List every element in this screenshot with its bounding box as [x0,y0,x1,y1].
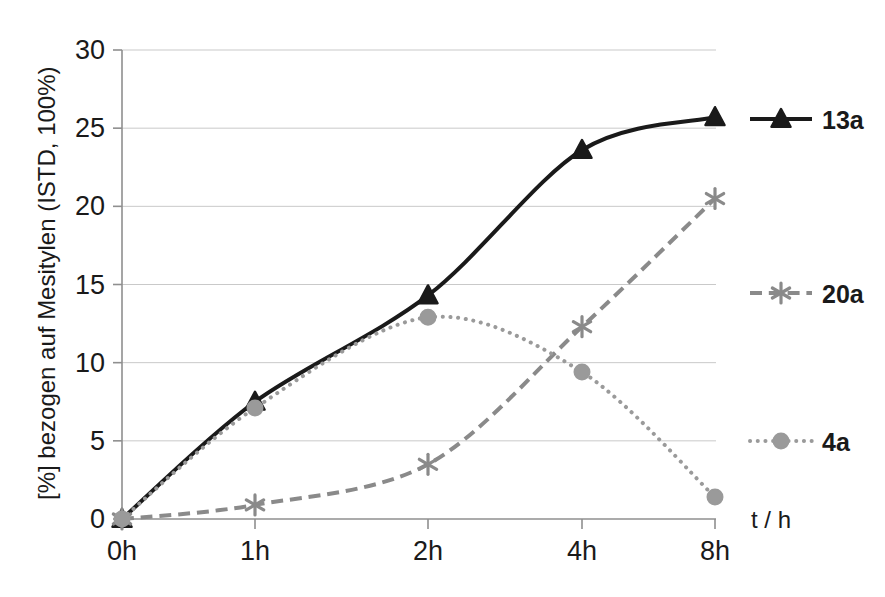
y-tick-label: 20 [75,191,105,221]
legend-label-20a: 20a [822,280,865,308]
y-tick-label: 25 [75,113,105,143]
x-tick-label: 0h [107,536,137,566]
y-tick-label: 30 [75,35,105,65]
data-point-4a-2h [421,310,436,325]
y-tick-label: 5 [90,426,105,456]
legend-swatch-marker-4a [774,434,789,449]
legend-label-4a: 4a [822,428,851,456]
x-tick-label: 8h [700,536,730,566]
x-tick-label: 2h [413,536,443,566]
data-point-4a-0h [115,512,130,527]
x-axis-title: t / h [751,506,791,533]
data-point-4a-8h [708,490,723,505]
data-point-4a-4h [575,365,590,380]
chart-container: 051015202530 0h1h2h4h8h [%] bezogen auf … [0,0,885,597]
legend-label-13a: 13a [822,106,865,134]
y-axis-title: [%] bezogen auf Mesitylen (ISTD, 100%) [33,66,60,500]
y-tick-label: 10 [75,348,105,378]
x-tick-label: 1h [240,536,270,566]
data-point-4a-1h [248,401,263,416]
x-tick-label: 4h [567,536,597,566]
line-chart: 051015202530 0h1h2h4h8h [%] bezogen auf … [0,0,885,597]
y-tick-label: 15 [75,270,105,300]
y-tick-label: 0 [90,504,105,534]
